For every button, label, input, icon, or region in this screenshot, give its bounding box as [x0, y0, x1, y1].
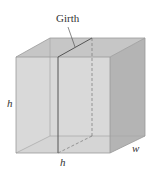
box-diagram: Girth h h w	[0, 0, 153, 173]
girth-label: Girth	[56, 13, 79, 24]
width-label: w	[132, 143, 139, 154]
bottom-label: h	[60, 157, 66, 168]
box-drawing	[0, 0, 153, 173]
height-label: h	[7, 98, 13, 109]
front-face	[16, 57, 110, 153]
